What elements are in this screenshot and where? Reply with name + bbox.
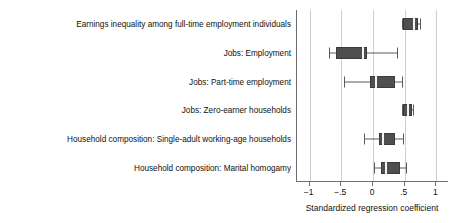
x-tick-label: 1 — [433, 187, 438, 197]
x-tick-label: −1 — [304, 187, 314, 197]
x-tick-label: 0 — [370, 187, 375, 197]
x-tick — [372, 182, 373, 186]
median-line — [385, 162, 387, 174]
whisker-low-cap — [329, 48, 330, 59]
whisker-high-cap — [406, 162, 407, 173]
gridline-0 — [373, 10, 374, 181]
x-axis-title: Standardized regression coefficient — [296, 203, 448, 213]
category-label: Earnings inequality among full-time empl… — [76, 20, 291, 29]
category-label: Jobs: Employment — [224, 49, 291, 58]
whisker-low-cap — [402, 19, 403, 30]
whisker-low-cap — [374, 162, 375, 173]
median-line — [375, 76, 377, 88]
x-tick — [435, 182, 436, 186]
whisker-high-line — [395, 139, 404, 140]
box-row — [297, 157, 448, 179]
median-line — [413, 18, 415, 30]
category-label: Household composition: Single-adult work… — [67, 135, 291, 144]
box — [379, 133, 395, 145]
median-line — [382, 133, 384, 145]
whisker-low-line — [364, 139, 379, 140]
whisker-low-line — [374, 167, 381, 168]
whisker-high-cap — [413, 105, 414, 116]
category-label: Jobs: Part-time employment — [189, 77, 291, 86]
whisker-high-cap — [420, 19, 421, 30]
gridline-neg1 — [310, 10, 311, 181]
box-plot-figure: Earnings inequality among full-time empl… — [0, 0, 455, 223]
category-label: Household composition: Marital homogamy — [134, 163, 291, 172]
box-row — [297, 13, 448, 35]
whisker-low-line — [344, 81, 371, 82]
plot-area — [296, 10, 448, 182]
box-row — [297, 99, 448, 121]
whisker-low-line — [329, 53, 336, 54]
whisker-low-cap — [344, 76, 345, 87]
x-tick — [404, 182, 405, 186]
box-row — [297, 42, 448, 64]
whisker-high-line — [395, 81, 403, 82]
whisker-high-cap — [397, 48, 398, 59]
median-line — [362, 47, 364, 59]
whisker-low-cap — [364, 134, 365, 145]
box — [403, 18, 418, 30]
x-tick-label: −.5 — [334, 187, 346, 197]
whisker-high-cap — [403, 134, 404, 145]
box-row — [297, 128, 448, 150]
whisker-high-line — [367, 53, 397, 54]
whisker-high-cap — [402, 76, 403, 87]
gridline-1 — [436, 10, 437, 181]
x-tick-label: .5 — [400, 187, 407, 197]
x-tick — [340, 182, 341, 186]
box-row — [297, 71, 448, 93]
gridline-0p5 — [405, 10, 406, 181]
median-line — [407, 104, 409, 116]
gridline-neg0p5 — [341, 10, 342, 181]
category-label: Jobs: Zero-earner households — [182, 106, 291, 115]
x-tick — [309, 182, 310, 186]
